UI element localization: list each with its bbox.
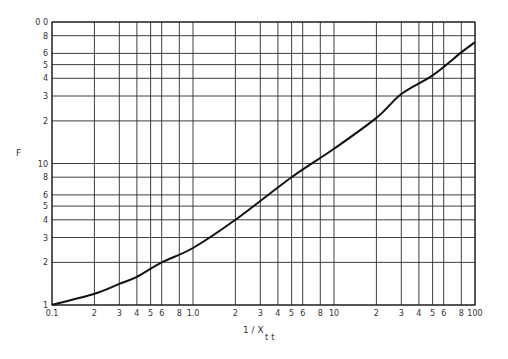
chart: 0.12345681.023456810234568100 1234568102… (0, 0, 508, 359)
x-tick-label: 5 (430, 309, 435, 318)
gridlines (52, 22, 475, 305)
y-axis-label: F (16, 148, 21, 158)
x-tick-label: 100 (467, 309, 482, 318)
x-tick-label: 3 (258, 309, 263, 318)
y-tick-label: 3 (43, 92, 48, 101)
x-tick-label: 2 (374, 309, 379, 318)
x-tick-label: 8 (177, 309, 182, 318)
y-tick-label: 8 (43, 32, 48, 41)
x-tick-label: 2 (92, 309, 97, 318)
y-tick-label: 2 (43, 117, 48, 126)
x-tick-label: 4 (416, 309, 421, 318)
y-tick-label: 2 (43, 258, 48, 267)
y-tick-label: 8 (43, 173, 48, 182)
x-tick-label: 0.1 (46, 309, 59, 318)
y-tick-label: 3 (43, 234, 48, 243)
x-tick-label: 8 (318, 309, 323, 318)
y-axis-tick-labels: 1234568102345680 0 (35, 18, 48, 310)
y-tick-label: 4 (43, 74, 48, 83)
x-tick-label: 5 (148, 309, 153, 318)
y-tick-label: 10 (38, 160, 48, 169)
x-tick-label: 3 (117, 309, 122, 318)
x-tick-label: 2 (233, 309, 238, 318)
x-axis-tick-labels: 0.12345681.023456810234568100 (46, 309, 483, 318)
x-tick-label: 8 (459, 309, 464, 318)
x-tick-label: 4 (134, 309, 139, 318)
x-axis-label: 1 / X (243, 325, 264, 335)
x-tick-label: 10 (329, 309, 339, 318)
y-tick-label: 6 (43, 49, 48, 58)
y-tick-label: 6 (43, 191, 48, 200)
x-tick-label: 5 (289, 309, 294, 318)
y-tick-label: 5 (43, 61, 48, 70)
y-tick-label: 5 (43, 202, 48, 211)
x-tick-label: 1.0 (187, 309, 200, 318)
x-tick-label: 6 (441, 309, 446, 318)
x-tick-label: 3 (399, 309, 404, 318)
y-tick-label: 1 (43, 301, 48, 310)
x-tick-label: 6 (159, 309, 164, 318)
x-tick-label: 6 (300, 309, 305, 318)
y-tick-label: 4 (43, 216, 48, 225)
y-tick-label: 0 0 (35, 18, 48, 27)
x-axis-label-subscript: tt (265, 333, 277, 342)
data-curve-F (52, 42, 475, 305)
x-tick-label: 4 (275, 309, 280, 318)
